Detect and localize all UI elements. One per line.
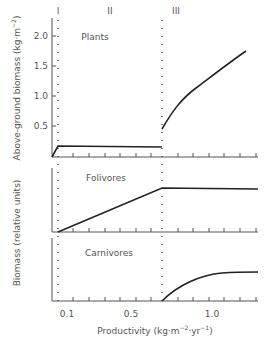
ytick-2.0: 2.0 xyxy=(34,31,49,41)
y-axis-label-bottom: Biomass (relative units) xyxy=(12,180,22,287)
carnivores-panel: Carnivores xyxy=(52,238,258,301)
zone-label-ii: II xyxy=(107,6,112,16)
y-axis-label-top: Above-ground biomass (kg·m−2) xyxy=(10,16,22,161)
plants-panel: 2.0 1.5 1.0 0.5 Plants xyxy=(34,18,258,157)
xtick-0.5: 0.5 xyxy=(124,309,138,319)
trophic-biomass-chart: I II III 2.0 1.5 1.0 0.5 Plants xyxy=(0,0,272,347)
plants-x-ticks xyxy=(73,153,256,157)
ytick-1.0: 1.0 xyxy=(34,91,49,101)
ytick-0.5: 0.5 xyxy=(34,121,48,131)
x-axis-label: Productivity (kg·m−2·yr−1) xyxy=(97,324,212,336)
folivores-panel: Folivores xyxy=(52,168,258,232)
plants-line-high xyxy=(162,51,246,129)
zone-label-iii: III xyxy=(172,6,180,16)
folivores-line xyxy=(58,188,258,232)
zone-label-i: I xyxy=(57,6,60,16)
xtick-1.0: 1.0 xyxy=(205,309,220,319)
folivores-label: Folivores xyxy=(86,173,126,183)
xtick-0.1: 0.1 xyxy=(60,309,74,319)
carnivores-label: Carnivores xyxy=(85,248,133,258)
plants-label: Plants xyxy=(81,32,109,42)
plants-line-low xyxy=(52,146,162,157)
carnivores-line xyxy=(162,272,258,301)
ytick-1.5: 1.5 xyxy=(34,61,48,71)
